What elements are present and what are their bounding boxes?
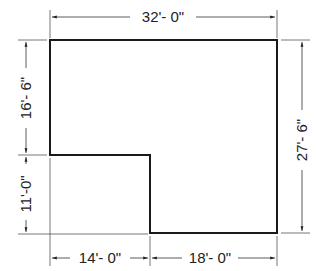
dim-bottom-right-label: 18'- 0": [189, 249, 231, 266]
dim-left-upper-label: 16'- 6": [17, 77, 34, 119]
dim-right-label: 27'- 6": [293, 119, 310, 161]
dim-right: 27'- 6": [293, 42, 310, 231]
dim-left-upper: 16'- 6": [17, 42, 34, 153]
floor-plan-diagram: 32'- 0" 16'- 6" 11'-0" 27'- 6" 14'- 0" 1…: [0, 0, 316, 271]
dim-left-lower-label: 11'-0": [17, 175, 34, 212]
floor-outline: [50, 40, 277, 233]
dim-top: 32'- 0": [52, 8, 275, 25]
extension-lines: [18, 10, 310, 266]
dim-left-lower: 11'-0": [17, 157, 34, 232]
dim-bottom-left: 14'- 0": [52, 249, 148, 266]
dim-top-label: 32'- 0": [142, 8, 184, 25]
dim-bottom-right: 18'- 0": [152, 249, 275, 266]
dim-bottom-left-label: 14'- 0": [79, 249, 121, 266]
